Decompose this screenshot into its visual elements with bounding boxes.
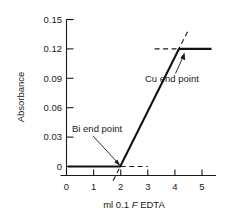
- cu-end-point-arrow-head: [180, 53, 185, 61]
- x-tick-labels: 0 1 2 3 4 5: [64, 181, 205, 192]
- y-tick-label-0-12: 0.12: [44, 43, 63, 54]
- x-tick-marks: [67, 170, 203, 176]
- y-axis-title: Absorbance: [15, 72, 26, 123]
- y-tick-labels: 0.15 0.12 0.09 0.06 0.03 0: [44, 14, 63, 172]
- x-tick-label-1: 1: [91, 181, 96, 192]
- y-tick-label-0-06: 0.06: [44, 102, 63, 113]
- titration-curve: [68, 49, 212, 167]
- titration-chart: 0.15 0.12 0.09 0.06 0.03 0 0 1 2 3 4 5 m…: [0, 0, 225, 218]
- x-axis-title-post: EDTA: [138, 199, 166, 210]
- x-axis-title-pre: ml 0.1: [103, 199, 132, 210]
- bi-end-point-leader: [93, 136, 118, 163]
- y-tick-label-0-15: 0.15: [44, 14, 63, 25]
- chart-screen: 0.15 0.12 0.09 0.06 0.03 0 0 1 2 3 4 5 m…: [0, 0, 225, 218]
- x-tick-label-3: 3: [145, 181, 150, 192]
- y-tick-label-0: 0: [57, 161, 62, 172]
- cu-end-point-label: Cu end point: [145, 73, 199, 84]
- y-tick-marks: [67, 20, 74, 167]
- x-axis-title: ml 0.1 F EDTA: [103, 199, 165, 210]
- x-tick-label-0: 0: [64, 181, 69, 192]
- x-tick-label-5: 5: [199, 181, 204, 192]
- y-tick-label-0-09: 0.09: [44, 73, 63, 84]
- x-tick-label-2: 2: [118, 181, 123, 192]
- x-tick-label-4: 4: [172, 181, 177, 192]
- cu-end-point-annotation: Cu end point: [145, 53, 199, 84]
- y-tick-label-0-03: 0.03: [44, 131, 63, 142]
- cu-end-point-leader: [176, 57, 184, 74]
- bi-end-point-annotation: Bi end point: [72, 123, 123, 167]
- bi-end-point-label: Bi end point: [72, 123, 123, 134]
- axes-group: [61, 20, 217, 176]
